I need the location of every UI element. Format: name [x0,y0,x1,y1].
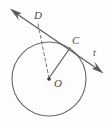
geometry-figure: D C O t [0,0,111,122]
label-line-t: t [93,47,96,58]
geometry-canvas [0,0,111,122]
center-dot-icon [47,77,51,81]
line-t [14,12,99,70]
label-center-o: O [54,78,62,89]
arrow-head-upper-left-icon [10,9,22,21]
label-point-d: D [34,10,42,21]
arrow-head-lower-right-icon [92,61,104,73]
segment-c-to-o [49,48,70,78]
label-point-c: C [72,35,79,46]
